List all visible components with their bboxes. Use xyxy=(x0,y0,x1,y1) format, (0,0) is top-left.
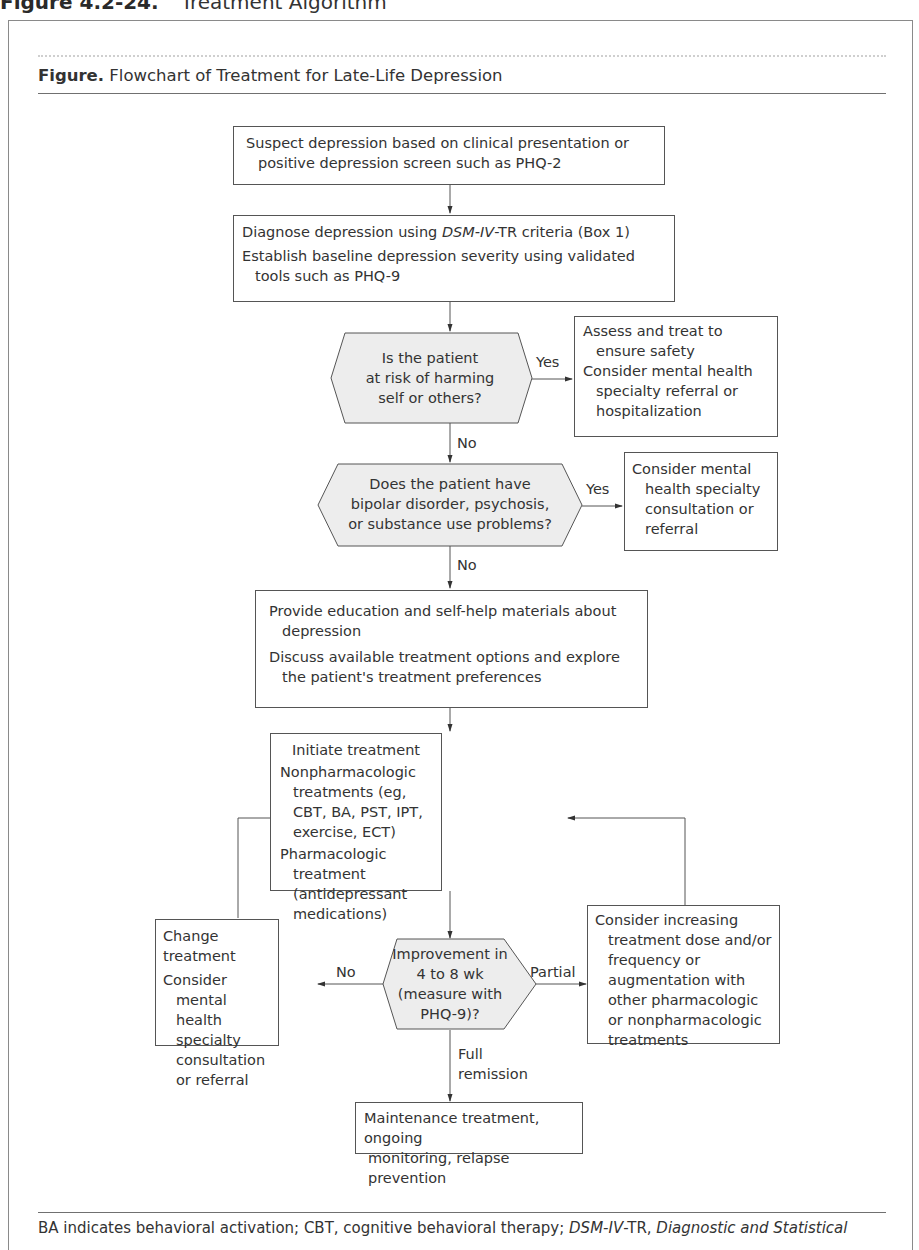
decision-line: PHQ-9)? xyxy=(390,1004,510,1024)
node-increase-treatment: Consider increasing treatment dose and/o… xyxy=(587,905,780,1044)
text-span: Diagnose depression using xyxy=(242,224,442,240)
decision-line: self or others? xyxy=(340,388,520,408)
node-text: Consider mental health specialty consult… xyxy=(163,970,271,1090)
decision-improvement: Improvement in 4 to 8 wk (measure with P… xyxy=(390,944,510,1024)
node-heading: Initiate treatment xyxy=(280,740,432,760)
footnote-text: BA indicates behavioral activation; CBT,… xyxy=(38,1219,569,1237)
node-change-treatment: Change treatment Consider mental health … xyxy=(155,919,279,1046)
edge-label-line: Full xyxy=(458,1044,528,1064)
decision-line: Is the patient xyxy=(340,348,520,368)
node-safety-action: Assess and treat to ensure safety Consid… xyxy=(574,316,778,437)
footer-rule xyxy=(38,1212,886,1213)
edge-label-improve-full: Full remission xyxy=(458,1044,528,1084)
node-text: Provide education and self-help material… xyxy=(269,601,634,641)
node-text: positive depression screen such as PHQ-2 xyxy=(246,153,652,173)
footnote-text: -TR, xyxy=(623,1219,656,1237)
node-education: Provide education and self-help material… xyxy=(255,590,648,708)
footnote-text: Diagnostic and Statistical xyxy=(656,1219,847,1237)
decision-line: Improvement in xyxy=(390,944,510,964)
edge-label-bipolar-yes: Yes xyxy=(586,479,609,499)
node-text: Suspect depression based on clinical pre… xyxy=(246,133,652,153)
node-text: Establish baseline depression severity u… xyxy=(242,246,666,286)
node-text: Maintenance treatment, ongoing xyxy=(364,1108,574,1148)
node-diagnose: Diagnose depression using DSM-IV-TR crit… xyxy=(233,215,675,302)
node-text: Diagnose depression using DSM-IV-TR crit… xyxy=(242,222,666,242)
edge-label-improve-no: No xyxy=(336,962,356,982)
decision-line: Does the patient have xyxy=(330,474,570,494)
footnote-text: DSM-IV xyxy=(569,1219,623,1237)
node-maintenance: Maintenance treatment, ongoing monitorin… xyxy=(355,1102,583,1154)
decision-line: bipolar disorder, psychosis, xyxy=(330,494,570,514)
node-text: Assess and treat to ensure safety xyxy=(583,321,769,361)
node-initiate: Initiate treatment Nonpharmacologic trea… xyxy=(270,733,442,891)
footnote: BA indicates behavioral activation; CBT,… xyxy=(38,1219,918,1237)
decision-line: or substance use problems? xyxy=(330,514,570,534)
edge-label-improve-partial: Partial xyxy=(530,962,576,982)
edge-label-line: remission xyxy=(458,1064,528,1084)
decision-bipolar: Does the patient have bipolar disorder, … xyxy=(330,474,570,534)
node-text: Nonpharmacologic treatments (eg, CBT, BA… xyxy=(280,762,432,842)
node-specialty-consult: Consider mental health specialty consult… xyxy=(624,452,778,551)
decision-line: at risk of harming xyxy=(340,368,520,388)
text-span: -TR criteria (Box 1) xyxy=(494,224,630,240)
node-text: Consider mental health specialty consult… xyxy=(632,459,770,539)
node-text: Discuss available treatment options and … xyxy=(269,647,634,687)
edge-label-bipolar-no: No xyxy=(457,555,477,575)
decision-risk: Is the patient at risk of harming self o… xyxy=(340,348,520,408)
node-text: Consider increasing treatment dose and/o… xyxy=(595,910,772,1050)
node-text: monitoring, relapse prevention xyxy=(364,1148,574,1188)
text-span: DSM-IV xyxy=(442,224,494,240)
decision-line: (measure with xyxy=(390,984,510,1004)
node-text: Consider mental health specialty referra… xyxy=(583,361,769,421)
edge-label-risk-yes: Yes xyxy=(536,352,559,372)
node-suspect-depression: Suspect depression based on clinical pre… xyxy=(233,126,665,185)
node-text: Change treatment xyxy=(163,926,271,966)
node-text: Pharmacologic treatment (antidepressant … xyxy=(280,844,432,924)
decision-line: 4 to 8 wk xyxy=(390,964,510,984)
edge-label-risk-no: No xyxy=(457,433,477,453)
